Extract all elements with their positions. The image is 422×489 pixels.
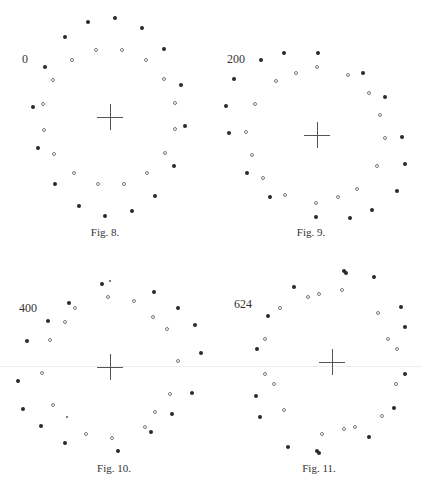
open-dot-marker bbox=[395, 347, 399, 351]
filled-dot-marker bbox=[190, 391, 194, 395]
open-dot-marker bbox=[144, 58, 148, 62]
open-dot-marker bbox=[40, 371, 44, 375]
filled-dot-marker bbox=[152, 290, 156, 294]
filled-dot-marker bbox=[149, 430, 153, 434]
open-dot-marker bbox=[314, 201, 318, 205]
open-dot-marker bbox=[120, 48, 124, 52]
filled-dot-marker bbox=[268, 195, 272, 199]
filled-dot-marker bbox=[176, 306, 180, 310]
filled-dot-marker bbox=[227, 131, 231, 135]
filled-dot-marker bbox=[170, 412, 174, 416]
filled-dot-marker bbox=[292, 285, 296, 289]
tiny-mark bbox=[66, 416, 68, 418]
open-dot-marker bbox=[94, 48, 98, 52]
open-dot-marker bbox=[106, 295, 110, 299]
open-dot-marker bbox=[168, 392, 172, 396]
filled-dot-marker bbox=[403, 325, 407, 329]
filled-dot-marker bbox=[255, 347, 259, 351]
open-dot-marker bbox=[163, 151, 167, 155]
open-dot-marker bbox=[383, 136, 387, 140]
open-dot-marker bbox=[263, 372, 267, 376]
filled-dot-marker bbox=[172, 164, 176, 168]
filled-dot-marker bbox=[67, 301, 71, 305]
filled-dot-marker bbox=[183, 124, 187, 128]
filled-dot-marker bbox=[232, 77, 236, 81]
open-dot-marker bbox=[51, 403, 55, 407]
filled-dot-marker bbox=[63, 441, 67, 445]
open-dot-marker bbox=[376, 311, 380, 315]
figure-11-caption: Fig. 11. bbox=[302, 462, 336, 474]
open-dot-marker bbox=[153, 410, 157, 414]
open-dot-marker bbox=[73, 306, 77, 310]
filled-dot-marker bbox=[16, 379, 20, 383]
open-dot-marker bbox=[143, 425, 147, 429]
filled-dot-marker bbox=[399, 305, 403, 309]
figure-plate: 0 Fig. 8. 200 Fig. 9. 400 Fig. 10. 624 F… bbox=[0, 0, 422, 489]
figure-8-time-label: 0 bbox=[22, 52, 28, 67]
center-cross-vertical bbox=[110, 104, 111, 130]
open-dot-marker bbox=[145, 171, 149, 175]
filled-dot-marker bbox=[392, 406, 396, 410]
open-dot-marker bbox=[340, 288, 344, 292]
open-dot-marker bbox=[346, 73, 350, 77]
filled-dot-marker bbox=[130, 209, 134, 213]
open-dot-marker bbox=[41, 102, 45, 106]
filled-dot-marker bbox=[179, 83, 183, 87]
open-dot-marker bbox=[244, 130, 248, 134]
open-dot-marker bbox=[320, 432, 324, 436]
open-dot-marker bbox=[367, 91, 371, 95]
open-dot-marker bbox=[282, 408, 286, 412]
open-dot-marker bbox=[250, 153, 254, 157]
filled-dot-marker bbox=[372, 275, 376, 279]
filled-dot-marker bbox=[344, 271, 348, 275]
filled-dot-marker bbox=[25, 339, 29, 343]
open-dot-marker bbox=[306, 295, 310, 299]
filled-dot-marker bbox=[36, 146, 40, 150]
open-dot-marker bbox=[151, 315, 155, 319]
filled-dot-marker bbox=[400, 135, 404, 139]
filled-dot-marker bbox=[403, 162, 407, 166]
open-dot-marker bbox=[63, 320, 67, 324]
center-cross-vertical bbox=[110, 354, 111, 380]
center-cross-vertical bbox=[317, 122, 318, 148]
filled-dot-marker bbox=[100, 282, 104, 286]
filled-dot-marker bbox=[259, 58, 263, 62]
open-dot-marker bbox=[342, 427, 346, 431]
open-dot-marker bbox=[253, 102, 257, 106]
open-dot-marker bbox=[375, 164, 379, 168]
open-dot-marker bbox=[272, 382, 276, 386]
filled-dot-marker bbox=[286, 445, 290, 449]
filled-dot-marker bbox=[370, 208, 374, 212]
filled-dot-marker bbox=[383, 95, 387, 99]
open-dot-marker bbox=[51, 78, 55, 82]
open-dot-marker bbox=[283, 193, 287, 197]
filled-dot-marker bbox=[53, 182, 57, 186]
open-dot-marker bbox=[317, 292, 321, 296]
filled-dot-marker bbox=[245, 171, 249, 175]
filled-dot-marker bbox=[395, 189, 399, 193]
open-dot-marker bbox=[84, 432, 88, 436]
open-dot-marker bbox=[96, 182, 100, 186]
open-dot-marker bbox=[42, 128, 46, 132]
filled-dot-marker bbox=[116, 449, 120, 453]
figure-9-caption: Fig. 9. bbox=[297, 226, 325, 238]
filled-dot-marker bbox=[193, 323, 197, 327]
open-dot-marker bbox=[162, 77, 166, 81]
filled-dot-marker bbox=[31, 105, 35, 109]
open-dot-marker bbox=[394, 382, 398, 386]
open-dot-marker bbox=[278, 306, 282, 310]
filled-dot-marker bbox=[367, 435, 371, 439]
filled-dot-marker bbox=[140, 26, 144, 30]
filled-dot-marker bbox=[77, 204, 81, 208]
open-dot-marker bbox=[52, 152, 56, 156]
open-dot-marker bbox=[263, 337, 267, 341]
filled-dot-marker bbox=[153, 194, 157, 198]
filled-dot-marker bbox=[63, 35, 67, 39]
filled-dot-marker bbox=[43, 65, 47, 69]
filled-dot-marker bbox=[224, 104, 228, 108]
filled-dot-marker bbox=[317, 451, 321, 455]
filled-dot-marker bbox=[162, 47, 166, 51]
filled-dot-marker bbox=[103, 214, 107, 218]
filled-dot-marker bbox=[282, 51, 286, 55]
open-dot-marker bbox=[173, 127, 177, 131]
